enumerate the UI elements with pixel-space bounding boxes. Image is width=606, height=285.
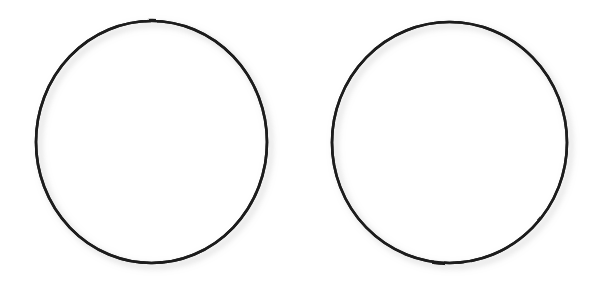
- right-circle-group[interactable]: [332, 22, 567, 263]
- drawing-canvas: [0, 0, 606, 285]
- right-circle-ink-overlay: [332, 22, 567, 263]
- left-circle-group[interactable]: [36, 21, 267, 263]
- left-circle-ink-overlay: [36, 21, 267, 263]
- circles-vector-layer: [0, 0, 606, 285]
